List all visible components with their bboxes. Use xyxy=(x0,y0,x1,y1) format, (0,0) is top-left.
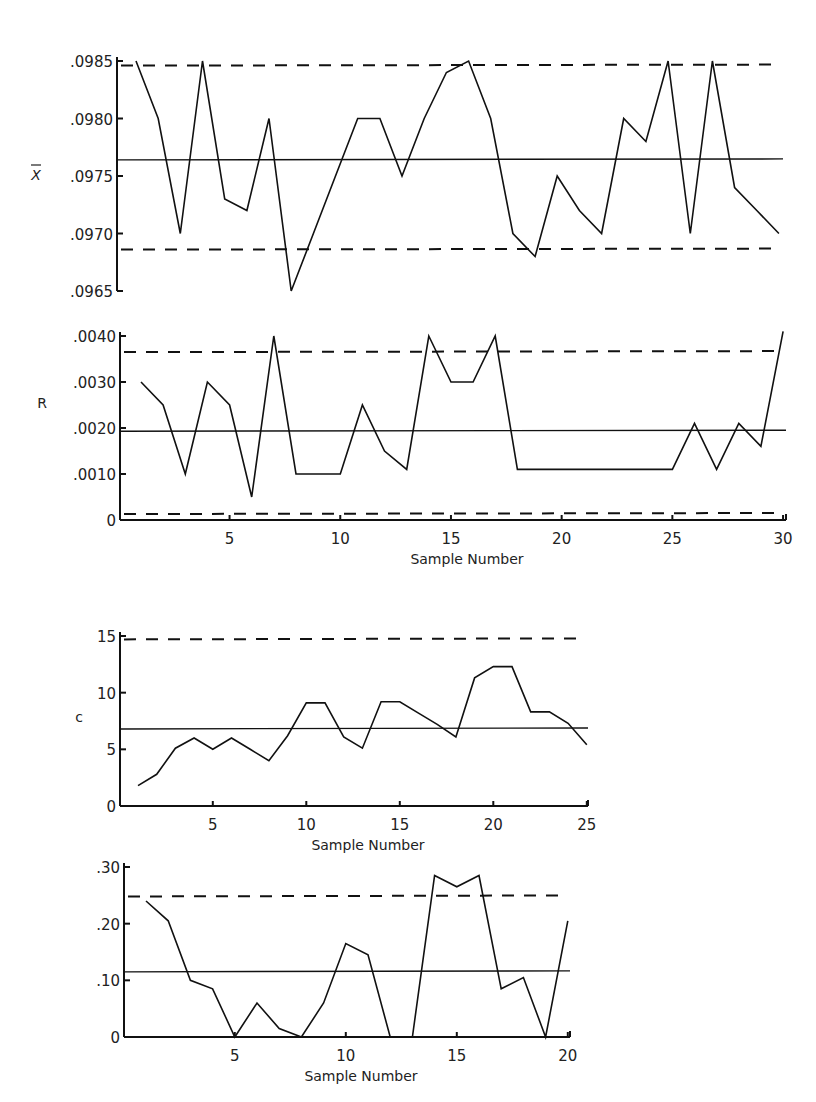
y-tick-label: .10 xyxy=(96,972,120,990)
y-axis-label: R xyxy=(37,395,47,411)
center-line xyxy=(117,159,783,160)
y-tick-label: .0010 xyxy=(73,466,116,484)
x-axis-label: Sample Number xyxy=(304,1068,417,1084)
y-tick-label: 0 xyxy=(106,798,116,816)
y-tick-label: .30 xyxy=(96,859,120,877)
y-tick-label: 10 xyxy=(97,685,116,703)
x-tick-label: 10 xyxy=(336,1047,355,1065)
upper-control-limit xyxy=(121,65,771,66)
y-tick-label: 5 xyxy=(106,741,116,759)
x-tick-label: 25 xyxy=(577,816,596,834)
y-axis-label: X xyxy=(30,167,41,183)
y-axis-label: c xyxy=(75,709,83,725)
x-tick-label: 20 xyxy=(552,530,571,548)
center-line xyxy=(120,728,588,729)
xbar-chart: .0985.0980.0975.0970.0965X xyxy=(30,53,783,301)
upper-control-limit xyxy=(124,351,774,352)
x-tick-label: 20 xyxy=(484,816,503,834)
x-tick-label: 25 xyxy=(663,530,682,548)
y-tick-label: .0970 xyxy=(70,226,113,244)
data-series-line xyxy=(141,331,783,497)
y-tick-label: 0 xyxy=(110,1029,120,1047)
lower-control-limit xyxy=(121,249,771,250)
y-tick-label: 0 xyxy=(106,512,116,530)
x-tick-label: 5 xyxy=(230,1047,240,1065)
x-tick-label: 5 xyxy=(225,530,235,548)
x-tick-label: 10 xyxy=(331,530,350,548)
y-tick-label: .0040 xyxy=(73,328,116,346)
x-axis-label: Sample Number xyxy=(410,551,523,567)
lower-control-limit xyxy=(124,513,774,514)
y-tick-label: .0020 xyxy=(73,420,116,438)
c-chart: 151050510152025Sample Numberc xyxy=(75,628,596,853)
x-tick-label: 10 xyxy=(297,816,316,834)
x-tick-label: 30 xyxy=(774,530,793,548)
p-chart: .30.20.1005101520Sample Number xyxy=(96,859,577,1084)
y-tick-label: .0965 xyxy=(70,283,113,301)
x-tick-label: 15 xyxy=(441,530,460,548)
y-tick-label: .0975 xyxy=(70,168,113,186)
y-tick-label: 15 xyxy=(97,628,116,646)
x-tick-label: 15 xyxy=(390,816,409,834)
y-tick-label: .0030 xyxy=(73,374,116,392)
range-chart: .0040.0030.0020.0010051015202530Sample N… xyxy=(37,328,792,567)
data-series-line xyxy=(138,667,587,786)
x-tick-label: 15 xyxy=(447,1047,466,1065)
control-charts-canvas: .0985.0980.0975.0970.0965X .0040.0030.00… xyxy=(0,0,816,1102)
center-line xyxy=(124,971,570,972)
x-tick-label: 20 xyxy=(558,1047,577,1065)
data-series-line xyxy=(146,876,568,1038)
y-tick-label: .0980 xyxy=(70,111,113,129)
data-series-line xyxy=(136,61,779,291)
x-tick-label: 5 xyxy=(208,816,218,834)
upper-control-limit xyxy=(128,895,558,896)
upper-control-limit xyxy=(124,638,576,639)
y-tick-label: .0985 xyxy=(70,53,113,71)
y-tick-label: .20 xyxy=(96,916,120,934)
x-axis-label: Sample Number xyxy=(311,837,424,853)
center-line xyxy=(120,430,786,431)
